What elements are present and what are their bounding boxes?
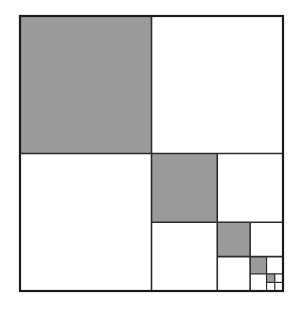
shaded-quadrant-2 [152, 154, 218, 223]
shaded-quadrant-4 [250, 257, 266, 274]
recursive-subdivision-figure: Recursive quadrant subdivision square A … [0, 0, 300, 312]
shaded-quadrant-1 [20, 16, 152, 154]
shaded-quadrant-3 [217, 222, 250, 256]
figure-root: Recursive quadrant subdivision square A … [0, 0, 300, 312]
shaded-quadrant-5 [267, 274, 275, 283]
